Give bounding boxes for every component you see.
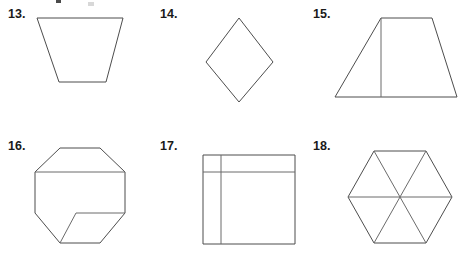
figure-14-number: 14. bbox=[160, 8, 177, 21]
figure-15-number: 15. bbox=[313, 8, 330, 21]
figure-13-shape bbox=[30, 12, 132, 92]
figure-17: 17. bbox=[155, 128, 310, 254]
figure-13: 13. bbox=[0, 0, 155, 125]
figure-16-octagon-outline bbox=[35, 148, 125, 243]
figure-15-shape bbox=[330, 12, 462, 104]
figure-17-number: 17. bbox=[160, 140, 177, 153]
figure-18: 18. bbox=[308, 128, 467, 254]
figure-13-number: 13. bbox=[8, 8, 25, 21]
figure-14-rhombus-outline bbox=[206, 18, 273, 102]
figure-16-lower-diagonal-segment bbox=[60, 213, 76, 243]
figure-13-trapezoid-outline bbox=[37, 18, 123, 82]
figure-16: 16. bbox=[0, 128, 155, 254]
figure-17-shape bbox=[195, 148, 305, 250]
figure-14-shape bbox=[200, 12, 278, 104]
figure-15-trapezoid-outline bbox=[335, 18, 457, 97]
figure-16-number: 16. bbox=[8, 140, 25, 153]
figure-17-square-outline bbox=[203, 155, 295, 244]
figure-16-shape bbox=[28, 140, 136, 252]
figure-18-shape bbox=[342, 144, 460, 250]
geometry-worksheet: 13. 14. 15. 16. 17. bbox=[0, 0, 467, 254]
figure-15: 15. bbox=[308, 0, 467, 125]
figure-18-number: 18. bbox=[313, 140, 330, 153]
figure-14: 14. bbox=[155, 0, 310, 125]
